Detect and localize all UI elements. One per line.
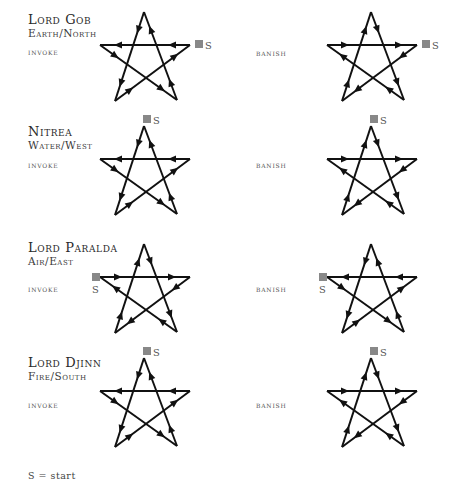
start-label: S [153,115,160,126]
start-marker-icon [370,115,378,123]
pentagram-invoke-row-2: S [100,115,190,215]
start-marker-icon [370,347,378,355]
pentagram-diagrams: SSSSSSSS [0,0,452,485]
start-label: S [380,115,387,126]
start-marker-icon [319,273,327,281]
pentagram-banish-row-3: S [319,244,417,333]
start-label: S [432,40,439,51]
start-marker-icon [143,347,151,355]
pentagram-invoke-row-3: S [92,244,190,333]
start-label: S [153,347,160,358]
pentagram-invoke-row-4: S [100,347,190,447]
pentagram-banish-row-4: S [327,347,417,447]
start-label: S [205,40,212,51]
start-label: S [319,284,326,295]
start-marker-icon [143,115,151,123]
start-marker-icon [422,40,430,48]
pentagram-invoke-row-1: S [100,12,212,101]
pentagram-banish-row-2: S [327,115,417,215]
pentagram-banish-row-1: S [327,12,439,101]
start-marker-icon [195,40,203,48]
start-marker-icon [92,273,100,281]
start-label: S [92,284,99,295]
start-label: S [380,347,387,358]
